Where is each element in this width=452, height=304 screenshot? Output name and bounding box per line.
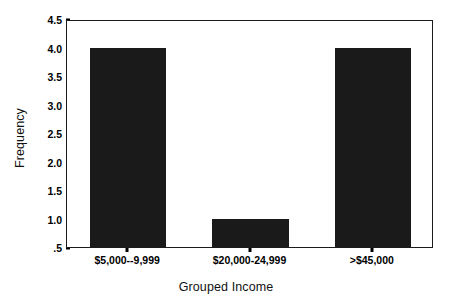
y-axis-tick-label: 2.0 — [30, 157, 62, 168]
y-axis-tick-label: 2.5 — [30, 129, 62, 140]
x-axis-category-label: >$45,000 — [350, 254, 394, 267]
y-axis-tick-labels: 4.54.03.53.02.52.01.51.0.5 — [30, 0, 62, 304]
x-axis-title-text: Grouped Income — [179, 280, 274, 294]
x-axis-category-label: $5,000--9,999 — [94, 254, 159, 267]
x-axis-tick-mark — [126, 248, 129, 252]
x-axis-tick-mark — [370, 248, 373, 252]
plot-frame — [66, 20, 433, 248]
plot-area — [67, 21, 432, 247]
y-axis-tick-label: 4.5 — [30, 15, 62, 26]
y-axis-tick-label: 3.5 — [30, 72, 62, 83]
bar — [335, 48, 411, 248]
bar — [212, 219, 288, 248]
x-axis-title: Grouped Income — [0, 280, 452, 294]
y-axis-tick-label: 4.0 — [30, 43, 62, 54]
y-axis-tick-label: .5 — [30, 243, 62, 254]
y-axis-title: Frequency — [8, 58, 32, 218]
y-axis-title-text: Frequency — [13, 108, 27, 168]
y-axis-tick-label: 3.0 — [30, 100, 62, 111]
bar — [90, 48, 166, 248]
y-axis-tick-label: 1.5 — [30, 186, 62, 197]
x-axis-tick-mark — [248, 248, 251, 252]
y-axis-tick-label: 1.0 — [30, 214, 62, 225]
bar-chart: Frequency 4.54.03.53.02.52.01.51.0.5 $5,… — [0, 0, 452, 304]
x-axis-category-label: $20,000-24,999 — [213, 254, 287, 267]
